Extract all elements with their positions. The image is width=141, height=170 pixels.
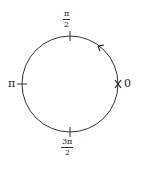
label-3pi-over-2: 3π 2 xyxy=(61,138,73,157)
label-bottom-denominator: 2 xyxy=(65,148,70,157)
label-top-numerator: π xyxy=(63,10,70,20)
label-pi: π xyxy=(8,78,15,89)
label-zero: 0 xyxy=(124,78,131,89)
unit-circle-diagram: π 2 π 0 3π 2 xyxy=(0,0,141,170)
label-bottom-numerator: 3π xyxy=(61,138,73,148)
unit-circle xyxy=(22,36,118,132)
label-top-denominator: 2 xyxy=(64,20,69,29)
label-pi-over-2: π 2 xyxy=(63,10,70,29)
